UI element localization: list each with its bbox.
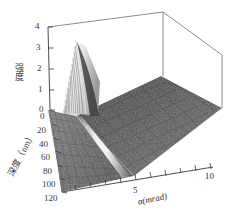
z-tick-label-2: 2	[37, 64, 42, 73]
surface-mesh	[42, 40, 230, 200]
plot-canvas	[0, 0, 235, 222]
z-tick-label-1: 1	[38, 85, 43, 94]
depth-tick-label-100: 100	[42, 180, 56, 189]
z-axis-line	[48, 27, 50, 110]
depth-tick-label-20: 20	[37, 126, 46, 135]
depth-tick-120	[62, 192, 67, 193]
surface-plot-figure: 4 3 2 1 0 0 20 40 60 80 100 120 5 10 强度 …	[0, 0, 235, 222]
alpha-tick-10	[210, 163, 211, 169]
depth-tick-label-40: 40	[39, 140, 48, 149]
depth-tick-label-120: 120	[44, 194, 58, 203]
box-edge-back-top-left	[48, 12, 163, 27]
depth-tick-label-60: 60	[41, 153, 50, 162]
box-edge-back-top-right	[163, 12, 222, 55]
alpha-tick-label-10: 10	[205, 172, 214, 181]
alpha-tick-label-5: 5	[133, 186, 138, 195]
z-axis-title: 强度	[11, 63, 23, 81]
z-tick-label-3: 3	[36, 43, 41, 52]
surface-peak	[62, 40, 100, 116]
z-tick-label-4: 4	[35, 22, 40, 31]
depth-tick-label-80: 80	[43, 167, 52, 176]
depth-tick-label-0: 0	[40, 112, 45, 121]
